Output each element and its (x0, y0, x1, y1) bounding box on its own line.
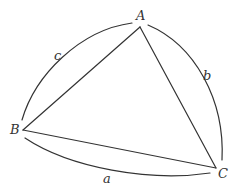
side-label-b: b (203, 68, 211, 83)
arc-b (148, 25, 222, 160)
vertex-label-c: C (218, 166, 228, 181)
vertex-label-b: B (9, 122, 20, 137)
spherical-triangle-diagram: A B C c b a (0, 0, 240, 190)
side-label-c: c (54, 48, 62, 63)
chord-ac (140, 27, 216, 168)
arc-c (22, 23, 132, 120)
arc-a (25, 138, 210, 176)
chord-bc (23, 130, 216, 168)
side-label-a: a (103, 171, 111, 186)
vertex-label-a: A (135, 8, 145, 23)
